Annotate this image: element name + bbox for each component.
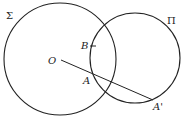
label-sigma: Σ	[6, 10, 13, 21]
circle-sigma	[4, 3, 116, 115]
label-point-b: B	[80, 40, 88, 51]
label-pi: Π	[167, 15, 176, 26]
label-point-o: O	[48, 55, 56, 66]
circle-pi	[90, 13, 180, 103]
label-point-a: A	[82, 75, 90, 86]
diagram-svg: Σ Π O B A A'	[0, 0, 190, 124]
segment-o-a-prime	[61, 60, 153, 100]
label-point-a-prime: A'	[152, 101, 163, 112]
geometry-diagram: Σ Π O B A A'	[0, 0, 190, 124]
